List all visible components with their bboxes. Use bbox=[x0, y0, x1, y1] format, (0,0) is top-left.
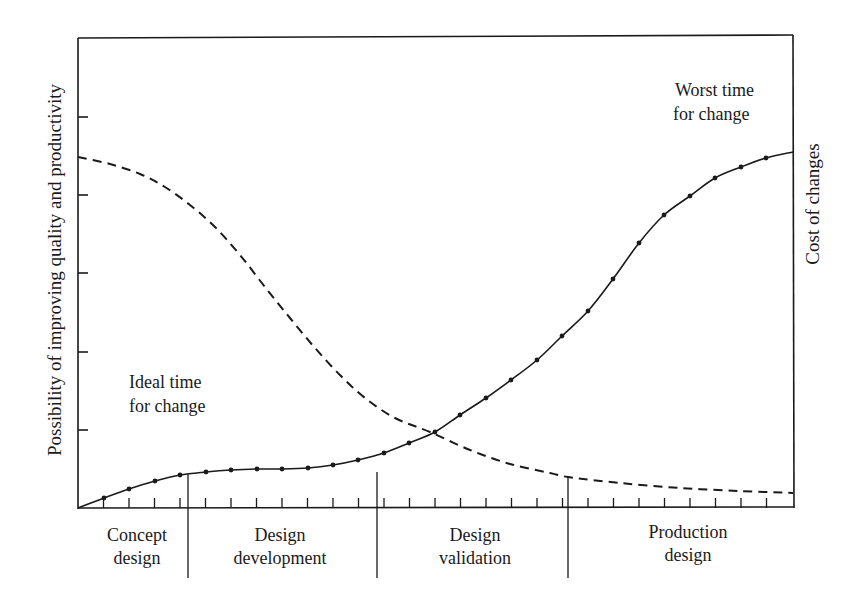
phase-labels: Conceptdesign Designdevelopment Designva… bbox=[107, 522, 728, 568]
cost-marker bbox=[637, 241, 642, 246]
cost-marker bbox=[407, 441, 412, 446]
cost-marker bbox=[764, 156, 769, 161]
ideal-line1: Ideal time bbox=[129, 372, 201, 392]
possibility-curve bbox=[78, 157, 793, 493]
cost-marker bbox=[688, 194, 693, 199]
ideal-time-label: Ideal time for change bbox=[129, 372, 206, 416]
bottom-axis bbox=[78, 507, 794, 508]
top-border bbox=[78, 35, 793, 38]
cost-marker bbox=[458, 413, 463, 418]
cost-marker bbox=[127, 487, 132, 492]
worst-line1: Worst time bbox=[675, 80, 754, 100]
phase-label-production: Productiondesign bbox=[649, 522, 728, 565]
cost-curve-markers bbox=[102, 156, 769, 501]
cost-marker bbox=[535, 358, 540, 363]
cost-marker bbox=[509, 378, 514, 383]
worst-time-label: Worst time for change bbox=[673, 80, 759, 124]
phase-label-concept: Conceptdesign bbox=[107, 525, 167, 568]
left-axis-ticks bbox=[78, 117, 88, 430]
cost-marker bbox=[306, 466, 311, 471]
cost-marker bbox=[739, 165, 744, 170]
worst-line2: for change bbox=[673, 104, 749, 124]
cost-marker bbox=[611, 277, 616, 282]
cost-marker bbox=[713, 176, 718, 181]
right-axis-title: Cost of changes bbox=[802, 143, 823, 264]
phase-label-validation: Designvalidation bbox=[439, 525, 511, 568]
chart: Ideal time for change Worst time for cha… bbox=[0, 0, 860, 601]
cost-marker bbox=[586, 309, 591, 314]
cost-marker bbox=[229, 468, 234, 473]
cost-marker bbox=[331, 463, 336, 468]
cost-marker bbox=[204, 470, 209, 475]
cost-marker bbox=[433, 430, 438, 435]
cost-marker bbox=[560, 334, 565, 339]
cost-marker bbox=[382, 451, 387, 456]
cost-marker bbox=[102, 496, 107, 501]
phase-label-development: Designdevelopment bbox=[234, 525, 327, 568]
right-axis bbox=[793, 35, 794, 508]
left-axis-title: Possibility of improving quality and pro… bbox=[44, 83, 65, 456]
cost-marker bbox=[255, 467, 260, 472]
cost-marker bbox=[356, 458, 361, 463]
cost-marker bbox=[178, 473, 183, 478]
cost-marker bbox=[662, 213, 667, 218]
cost-curve bbox=[78, 152, 793, 508]
cost-marker bbox=[153, 479, 158, 484]
cost-marker bbox=[484, 396, 489, 401]
ideal-line2: for change bbox=[129, 396, 205, 416]
cost-marker bbox=[280, 467, 285, 472]
